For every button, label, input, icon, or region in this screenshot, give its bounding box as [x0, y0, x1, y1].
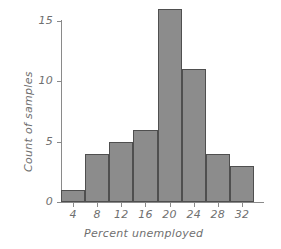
histogram-bar	[158, 9, 182, 202]
histogram-bar	[182, 69, 206, 202]
plot-area	[0, 0, 281, 249]
y-axis-title: Count of samples	[22, 71, 35, 172]
histogram-chart: 051015 48121620242832 Count of samples P…	[0, 0, 281, 249]
x-axis-title: Percent unemployed	[84, 227, 203, 240]
histogram-bar	[85, 154, 109, 202]
histogram-bar	[109, 142, 133, 202]
histogram-bar	[61, 190, 85, 202]
histogram-bar	[206, 154, 230, 202]
histogram-bar	[133, 130, 157, 202]
histogram-bar	[230, 166, 254, 202]
